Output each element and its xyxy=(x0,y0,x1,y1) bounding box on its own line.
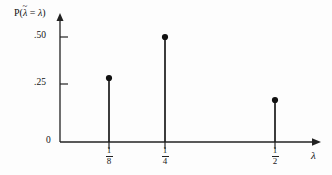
fraction-denominator: 2 xyxy=(265,157,285,166)
stem-marker-0 xyxy=(106,75,112,81)
stem-marker-1 xyxy=(162,34,168,40)
origin-label: 0 xyxy=(46,136,51,146)
x-tick-label-one-quarter: 1 4 xyxy=(155,146,175,166)
fraction-numerator: 1 xyxy=(99,146,119,155)
fraction-numerator: 1 xyxy=(265,146,285,155)
y-tick-label-050: .50 xyxy=(34,31,46,41)
x-tick-label-one-half: 1 2 xyxy=(265,146,285,166)
tilde-accent: ~ xyxy=(23,2,28,11)
stem-marker-2 xyxy=(272,97,278,103)
y-axis-title-equals: = xyxy=(27,7,38,18)
y-axis-title-suffix: ) xyxy=(42,7,45,18)
x-axis-title: λ xyxy=(311,150,316,161)
y-axis-title: P(~λ = λ) xyxy=(14,8,46,18)
pmf-stem-plot-figure: P(~λ = λ) .50 .25 0 1 8 1 4 1 2 λ xyxy=(0,0,332,175)
lambda-tilde-group: ~λ xyxy=(23,8,27,18)
y-tick-label-025: .25 xyxy=(34,78,46,88)
y-axis-arrowhead xyxy=(57,13,64,21)
x-axis-arrowhead xyxy=(312,138,321,146)
fraction-denominator: 8 xyxy=(99,157,119,166)
x-tick-label-one-eighth: 1 8 xyxy=(99,146,119,166)
fraction-denominator: 4 xyxy=(155,157,175,166)
fraction-numerator: 1 xyxy=(155,146,175,155)
